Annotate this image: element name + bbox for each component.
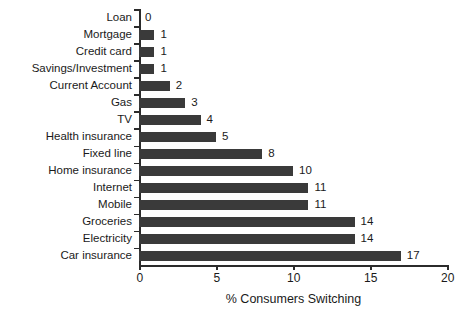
category-label: TV [117, 114, 132, 126]
category-label: Home insurance [48, 165, 132, 177]
x-axis-title: % Consumers Switching [139, 292, 448, 306]
x-axis-tick-label: 20 [441, 272, 454, 284]
x-axis-tick [447, 265, 449, 270]
bar-row: Car insurance17 [139, 248, 447, 265]
bar [139, 217, 355, 227]
plot-area: Loan0Mortgage1Credit card1Savings/Invest… [139, 9, 447, 265]
bar [139, 183, 308, 193]
category-label: Mobile [98, 200, 132, 212]
bar-row: Loan0 [139, 9, 447, 26]
bar-value-label: 10 [299, 165, 312, 177]
category-label: Gas [111, 97, 132, 109]
category-label: Fixed line [83, 148, 132, 160]
bar-value-label: 17 [407, 251, 420, 263]
category-label: Car insurance [60, 251, 132, 263]
y-axis-tick [134, 9, 139, 11]
bar-row: Health insurance5 [139, 128, 447, 145]
x-axis-tick-label: 10 [287, 272, 300, 284]
y-axis-tick [134, 43, 139, 45]
category-label: Loan [106, 12, 132, 24]
bar-row: Gas3 [139, 94, 447, 111]
bar [139, 251, 401, 261]
bar-value-label: 3 [191, 97, 197, 109]
category-label: Internet [93, 182, 132, 194]
y-axis-tick [134, 180, 139, 182]
bar-value-label: 11 [314, 200, 326, 212]
bar-value-label: 8 [268, 148, 274, 160]
bar-row: Home insurance10 [139, 163, 447, 180]
category-label: Credit card [76, 46, 132, 58]
y-axis-tick [134, 94, 139, 96]
y-axis-tick [134, 111, 139, 113]
bar-value-label: 14 [361, 234, 374, 246]
x-axis-tick-label: 5 [213, 272, 220, 284]
bar-row: Current Account2 [139, 77, 447, 94]
category-label: Health insurance [46, 131, 132, 143]
bar-value-label: 0 [145, 12, 151, 24]
bar [139, 234, 355, 244]
x-axis-tick [216, 265, 218, 270]
bar [139, 149, 262, 159]
bar-row: Credit card1 [139, 43, 447, 60]
bar-row: Internet11 [139, 180, 447, 197]
bar-row: Fixed line8 [139, 146, 447, 163]
category-label: Savings/Investment [32, 63, 132, 75]
x-axis-tick [370, 265, 372, 270]
y-axis-tick [134, 248, 139, 250]
bar [139, 200, 308, 210]
bar-value-label: 14 [361, 217, 374, 229]
y-axis-tick [134, 60, 139, 62]
bar-row: Savings/Investment1 [139, 60, 447, 77]
bar-chart: Loan0Mortgage1Credit card1Savings/Invest… [0, 0, 474, 321]
x-axis-tick-label: 15 [364, 272, 377, 284]
category-label: Mortgage [83, 29, 132, 41]
bar-value-label: 5 [222, 131, 228, 143]
bar [139, 30, 154, 40]
x-axis-tick [139, 265, 141, 270]
bar-value-label: 4 [207, 114, 213, 126]
bar [139, 166, 293, 176]
category-label: Groceries [82, 217, 132, 229]
bar-row: TV4 [139, 111, 447, 128]
bar-row: Groceries14 [139, 214, 447, 231]
y-axis-tick [134, 146, 139, 148]
y-axis-tick [134, 214, 139, 216]
y-axis-tick [134, 231, 139, 233]
bar-row: Mortgage1 [139, 26, 447, 43]
bar [139, 115, 201, 125]
bar [139, 98, 185, 108]
x-axis-tick [293, 265, 295, 270]
bar-value-label: 1 [160, 46, 166, 58]
bar-value-label: 1 [160, 63, 166, 75]
y-axis-tick [134, 77, 139, 79]
y-axis-tick [134, 197, 139, 199]
y-axis-tick [134, 128, 139, 130]
bar-value-label: 11 [314, 182, 326, 194]
bar [139, 132, 216, 142]
bar-value-label: 2 [176, 80, 182, 92]
category-label: Current Account [50, 80, 132, 92]
y-axis-tick [134, 163, 139, 165]
category-label: Electricity [83, 234, 132, 246]
bar [139, 81, 170, 91]
y-axis-tick [134, 26, 139, 28]
bar-row: Mobile11 [139, 197, 447, 214]
x-axis-tick-label: 0 [136, 272, 143, 284]
bar [139, 64, 154, 74]
bar-value-label: 1 [160, 29, 166, 41]
bar [139, 47, 154, 57]
bar-row: Electricity14 [139, 231, 447, 248]
